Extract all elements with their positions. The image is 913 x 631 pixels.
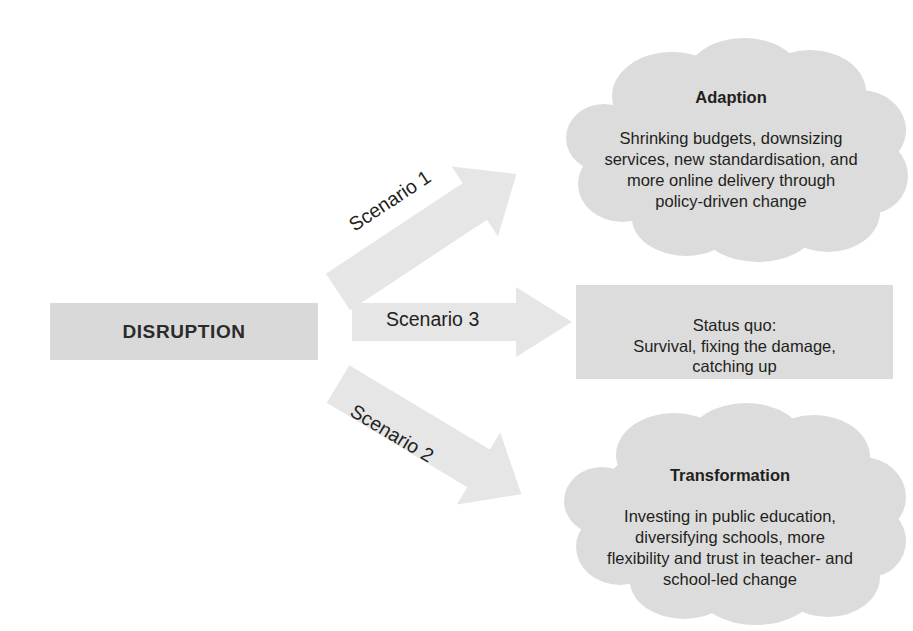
scenario-3-arrow [348,285,578,360]
disruption-box [50,303,318,360]
transformation-cloud [548,399,908,625]
adaption-cloud [552,34,908,262]
diagram-canvas: DISRUPTION Scenario 1 Scenario 3 Scenari… [0,0,913,631]
status-quo-box [576,285,893,379]
scenario-2-arrow [322,358,572,518]
